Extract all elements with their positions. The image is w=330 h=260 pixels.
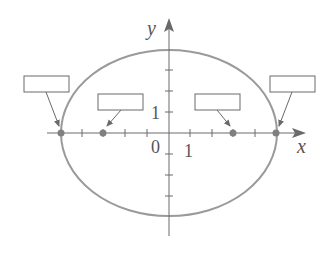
right-vertex-label-box[interactable] <box>270 76 315 92</box>
y-unit-label: 1 <box>151 103 160 123</box>
left-vertex-point <box>58 130 65 137</box>
right-vertex-point <box>273 130 280 137</box>
x-unit-label: 1 <box>184 141 193 161</box>
right-focus-point <box>230 130 237 137</box>
left-vertex-label-box[interactable] <box>24 76 69 92</box>
left-focus-label-box[interactable] <box>98 94 143 110</box>
y-axis-label: y <box>145 17 156 40</box>
ellipse-diagram: y x 0 1 1 <box>0 0 330 260</box>
origin-label: 0 <box>151 137 160 157</box>
x-axis-label: x <box>296 135 306 157</box>
right-focus-label-box[interactable] <box>195 94 240 110</box>
left-focus-point <box>100 130 107 137</box>
